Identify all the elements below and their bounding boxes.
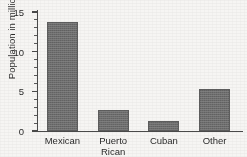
y-tick-label: 10 [13, 46, 24, 57]
plot-area [37, 12, 240, 131]
y-axis-ticks [27, 0, 37, 157]
bar [47, 22, 78, 131]
x-axis-line [32, 131, 243, 132]
y-tick-label: 0 [19, 126, 24, 137]
bar-chart-figure: Population in millions 051015 MexicanPue… [0, 0, 247, 157]
y-tick-label: 15 [13, 7, 24, 18]
bar [199, 89, 230, 131]
x-category-label: Other [183, 135, 246, 146]
bar [98, 110, 129, 131]
y-tick-label: 5 [19, 86, 24, 97]
bar [148, 121, 179, 131]
